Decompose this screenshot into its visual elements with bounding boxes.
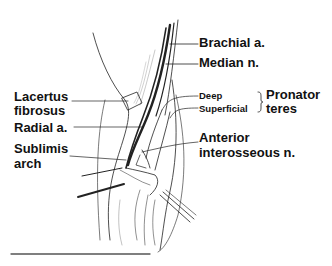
vessel-4 — [165, 20, 178, 115]
label-lacertus: Lacertus — [14, 90, 68, 104]
anterior-interosseous-branch — [142, 150, 150, 168]
label-pronator: Pronator — [266, 88, 320, 102]
label-radial-artery: Radial a. — [14, 121, 67, 135]
median-nerve — [126, 28, 166, 168]
label-deep: Deep — [199, 90, 222, 101]
label-superficial: Superficial — [199, 103, 248, 114]
arm-outline-left-2 — [98, 100, 105, 240]
label-arch: arch — [14, 157, 41, 171]
arm-outline-right-2 — [158, 95, 184, 252]
leader-anterior — [142, 142, 198, 152]
retractor-left-2 — [78, 184, 124, 197]
label-sublimis: Sublimis — [14, 142, 68, 156]
pronator-brace — [258, 92, 263, 112]
label-interosseous: interosseous n. — [199, 146, 295, 160]
label-anterior: Anterior — [199, 131, 250, 145]
arm-outline-right — [160, 80, 176, 250]
label-teres: teres — [266, 102, 297, 116]
label-median-nerve: Median n. — [199, 56, 259, 70]
retractor-left-1 — [82, 168, 122, 176]
pronator-superficial — [155, 112, 170, 170]
retractor-right-3 — [166, 190, 196, 215]
retractor-right-2 — [163, 192, 194, 219]
leader-superficial — [170, 108, 198, 118]
label-brachial-artery: Brachial a. — [199, 36, 265, 50]
label-fibrosus: fibrosus — [14, 104, 65, 118]
